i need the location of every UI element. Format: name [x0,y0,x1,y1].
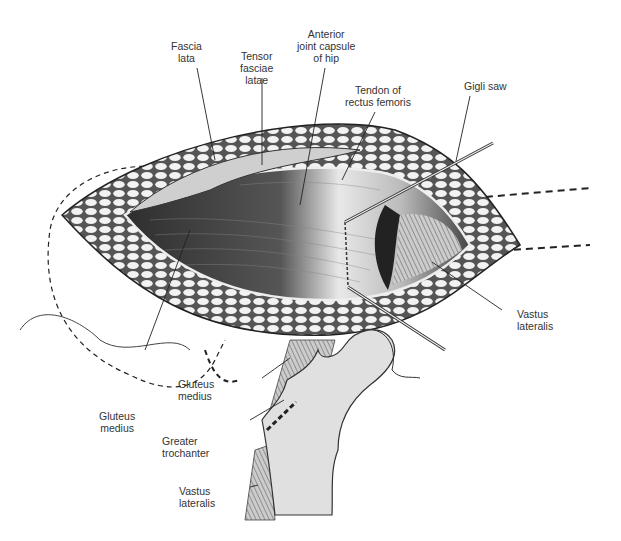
label-vastus-lateralis-top: Vastus lateralis [517,308,553,332]
femur-bone [262,330,395,515]
hip-exposure-illustration: Fascia lata Tensor fasciae latae Anterio… [0,0,621,541]
label-fascia-lata: Fascia lata [171,40,202,64]
label-gluteus-medius-left: Gluteus medius [99,410,135,434]
label-gigli-saw: Gigli saw [464,80,507,92]
anatomy-drawing [0,0,621,541]
label-tendon-rectus-femoris: Tendon of rectus femoris [345,84,411,108]
femur-inset [245,329,420,520]
label-vastus-lateralis-inset: Vastus lateralis [179,485,215,509]
label-anterior-joint-capsule: Anterior joint capsule of hip [297,28,355,64]
label-tensor-fasciae-latae: Tensor fasciae latae [240,50,273,86]
label-greater-trochanter: Greater trochanter [162,435,209,459]
label-gluteus-medius-inset: Gluteus medius [178,378,214,402]
